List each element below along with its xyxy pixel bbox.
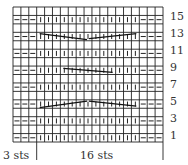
row-label-5: 5 [170, 96, 177, 107]
repeat-stitch-label: 16 sts [80, 150, 113, 161]
row-label-1: 1 [170, 130, 177, 141]
edge-stitch-label: 3 sts [3, 150, 29, 161]
row-label-7: 7 [170, 79, 177, 90]
row-label-13: 13 [170, 28, 184, 39]
row-label-15: 15 [170, 11, 184, 22]
knitting-chart-grid [0, 0, 188, 165]
row-label-9: 9 [170, 62, 177, 73]
row-label-11: 11 [170, 45, 184, 56]
row-label-3: 3 [170, 113, 177, 124]
